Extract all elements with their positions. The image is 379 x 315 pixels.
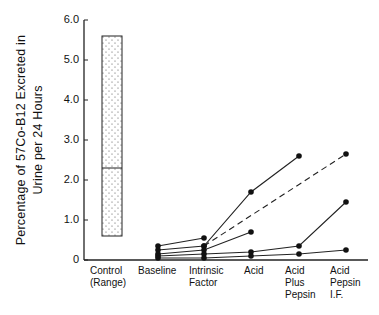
x-category-label: AcidPlusPepsin bbox=[285, 265, 316, 301]
data-point bbox=[201, 235, 207, 241]
x-category-label-line: Acid bbox=[244, 265, 263, 277]
y-tick-label: 5.0 bbox=[55, 53, 79, 65]
data-point bbox=[296, 251, 302, 257]
y-tick-label: 2.0 bbox=[55, 173, 79, 185]
x-category-label-line: Factor bbox=[189, 277, 223, 289]
data-point bbox=[343, 151, 349, 157]
y-tick-label: 3.0 bbox=[55, 133, 79, 145]
data-point bbox=[155, 255, 161, 261]
x-category-label: AcidPepsinI.F. bbox=[330, 265, 361, 301]
x-category-label-line: Baseline bbox=[138, 265, 176, 277]
x-category-label-line: Pepsin bbox=[330, 277, 361, 289]
data-point bbox=[296, 153, 302, 159]
x-category-label-line: Acid bbox=[330, 265, 361, 277]
series-line-patient-1 bbox=[158, 238, 204, 246]
x-category-label-line: I.F. bbox=[330, 289, 361, 301]
data-point bbox=[343, 199, 349, 205]
data-point bbox=[248, 189, 254, 195]
series-points bbox=[155, 151, 349, 261]
y-tick-label: 4.0 bbox=[55, 93, 79, 105]
data-point bbox=[343, 247, 349, 253]
y-tick-label: 6.0 bbox=[55, 13, 79, 25]
y-tick-label: 0 bbox=[55, 253, 79, 265]
x-category-label: Baseline bbox=[138, 265, 176, 277]
series-lines bbox=[158, 154, 346, 258]
data-point bbox=[248, 229, 254, 235]
x-category-label-line: (Range) bbox=[90, 277, 126, 289]
series-line-patient-2 bbox=[158, 156, 299, 250]
x-category-label: Control(Range) bbox=[90, 265, 126, 289]
x-category-label: IntrinsicFactor bbox=[189, 265, 223, 289]
x-category-label: Acid bbox=[244, 265, 263, 277]
series-line-patient-2-dashed bbox=[204, 154, 346, 246]
data-point bbox=[201, 255, 207, 261]
axes bbox=[84, 20, 368, 260]
x-category-label-line: Pepsin bbox=[285, 289, 316, 301]
y-tick-label: 1.0 bbox=[55, 213, 79, 225]
x-category-label-line: Acid bbox=[285, 265, 316, 277]
control-range-box bbox=[102, 36, 122, 236]
x-category-label-line: Plus bbox=[285, 277, 316, 289]
control-range-bar bbox=[102, 36, 122, 236]
x-category-label-line: Control bbox=[90, 265, 126, 277]
data-point bbox=[248, 253, 254, 259]
x-category-label-line: Intrinsic bbox=[189, 265, 223, 277]
data-point bbox=[296, 243, 302, 249]
